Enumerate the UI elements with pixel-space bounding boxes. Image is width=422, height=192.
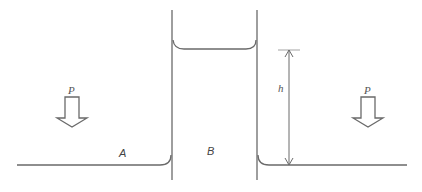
label-region-b: B [207, 145, 214, 157]
label-p-right: P [363, 84, 371, 96]
pressure-arrow-right-icon [353, 97, 383, 127]
label-p-left: P [67, 84, 75, 96]
outer-surface-right [258, 155, 407, 165]
label-region-a: A [118, 147, 126, 159]
outer-surface-left [17, 155, 171, 165]
label-height: h [278, 82, 284, 94]
inner-meniscus [173, 40, 256, 49]
pressure-arrow-left-icon [57, 97, 87, 127]
capillary-diagram: P P A B h [0, 0, 422, 192]
height-dimension [278, 50, 300, 165]
